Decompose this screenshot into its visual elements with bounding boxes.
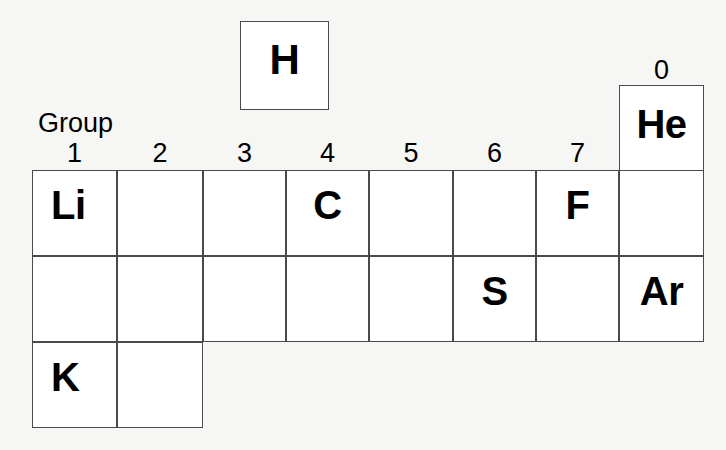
group-number-1: 1 — [32, 140, 117, 167]
element-cell-empty[interactable] — [369, 170, 453, 256]
element-cell-empty[interactable] — [286, 256, 369, 342]
group-caption-label: Group — [38, 110, 113, 137]
group-number-6: 6 — [453, 140, 536, 167]
group-number-4: 4 — [286, 140, 369, 167]
element-cell-empty[interactable] — [203, 170, 286, 256]
element-cell-empty[interactable] — [619, 170, 704, 256]
element-cell-s[interactable]: S — [453, 256, 536, 342]
element-cell-helium[interactable]: He — [619, 85, 704, 171]
element-cell-hydrogen[interactable]: H — [240, 21, 329, 110]
element-cell-empty[interactable] — [203, 256, 286, 342]
element-symbol-s: S — [454, 271, 535, 311]
element-symbol-hydrogen: H — [241, 39, 328, 81]
element-cell-empty[interactable] — [536, 256, 619, 342]
element-cell-empty[interactable] — [117, 342, 203, 428]
group-number-7: 7 — [536, 140, 619, 167]
element-symbol-ar: Ar — [620, 271, 703, 311]
element-symbol-f: F — [537, 185, 618, 225]
element-cell-empty[interactable] — [117, 256, 203, 342]
group-number-3: 3 — [203, 140, 286, 167]
element-symbol-c: C — [287, 185, 368, 225]
element-cell-k[interactable]: K — [32, 342, 117, 428]
group-number-2: 2 — [117, 140, 203, 167]
group-number-5: 5 — [369, 140, 453, 167]
group-zero-label: 0 — [619, 57, 704, 84]
element-cell-c[interactable]: C — [286, 170, 369, 256]
periodic-table-figure: H 0 He Group 1234567 LiCFSArK — [0, 0, 726, 450]
element-cell-empty[interactable] — [32, 256, 117, 342]
element-cell-f[interactable]: F — [536, 170, 619, 256]
element-cell-empty[interactable] — [453, 170, 536, 256]
element-cell-empty[interactable] — [369, 256, 453, 342]
element-symbol-helium: He — [620, 104, 703, 144]
element-cell-ar[interactable]: Ar — [619, 256, 704, 342]
element-cell-li[interactable]: Li — [32, 170, 117, 256]
element-symbol-li: Li — [33, 185, 116, 225]
element-cell-empty[interactable] — [117, 170, 203, 256]
element-symbol-k: K — [33, 357, 116, 397]
